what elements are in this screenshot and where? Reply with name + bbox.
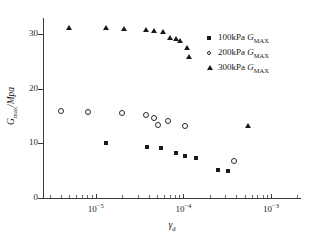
scatter-chart: 0102030 10−510−410−3 Gmax/Mpa γd 100kPa … xyxy=(0,0,314,243)
x-tick-minor xyxy=(257,195,258,198)
y-axis-title-units: /Mpa xyxy=(6,87,16,107)
x-tick-label: 10−5 xyxy=(76,201,116,214)
data-point xyxy=(183,154,187,158)
data-point xyxy=(174,151,178,155)
x-tick-label: 10−3 xyxy=(251,201,291,214)
y-axis-line xyxy=(43,18,44,198)
y-tick-label: 10 xyxy=(14,138,38,147)
x-tick-minor xyxy=(236,195,237,198)
x-tick-minor xyxy=(297,195,298,198)
data-point xyxy=(216,168,220,172)
x-axis-title-subscript: d xyxy=(172,225,175,232)
y-tick xyxy=(38,34,43,35)
legend-item: 300kPa GMAX xyxy=(207,60,312,75)
legend-marker-circle-icon xyxy=(207,51,211,55)
x-tick-minor xyxy=(69,195,70,198)
data-point xyxy=(104,141,108,145)
x-tick-minor xyxy=(164,195,165,198)
x-tick-minor xyxy=(252,195,253,198)
data-point xyxy=(103,25,109,30)
data-point xyxy=(194,156,198,160)
x-tick-minor xyxy=(92,195,93,198)
data-point xyxy=(58,108,64,114)
x-tick-minor xyxy=(245,195,246,198)
x-tick-minor xyxy=(179,195,180,198)
x-tick-minor xyxy=(157,195,158,198)
data-point xyxy=(182,123,188,129)
data-point xyxy=(165,118,171,124)
data-point xyxy=(186,54,192,59)
data-point xyxy=(143,112,149,118)
x-tick-minor xyxy=(149,195,150,198)
y-tick-label: 0 xyxy=(14,193,38,202)
legend-item: 100kPa GMAX xyxy=(207,30,312,45)
chart-legend: 100kPa GMAX200kPa GMAX300kPa GMAX xyxy=(207,30,312,75)
legend-marker-triangle-icon xyxy=(207,65,213,70)
data-point xyxy=(85,109,91,115)
y-axis-title-subscript: max xyxy=(11,107,18,118)
x-tick-minor xyxy=(122,195,123,198)
data-point xyxy=(231,158,237,164)
data-point xyxy=(119,110,125,116)
y-axis-title-symbol: G xyxy=(6,118,16,125)
data-point xyxy=(143,27,149,32)
y-tick xyxy=(38,89,43,90)
x-tick xyxy=(96,194,97,198)
x-tick-minor xyxy=(175,195,176,198)
x-tick-minor xyxy=(267,195,268,198)
x-tick-minor xyxy=(61,195,62,198)
legend-label: 300kPa GMAX xyxy=(218,60,269,78)
data-point xyxy=(66,25,72,30)
data-point xyxy=(184,45,190,50)
y-tick xyxy=(38,198,43,199)
x-tick-minor xyxy=(210,195,211,198)
data-point xyxy=(226,169,230,173)
x-tick-minor xyxy=(138,195,139,198)
x-tick-label: 10−4 xyxy=(163,201,203,214)
x-tick-minor xyxy=(225,195,226,198)
y-axis-title: Gmax/Mpa xyxy=(6,74,18,138)
x-tick xyxy=(183,194,184,198)
data-point xyxy=(160,29,166,34)
x-tick-minor xyxy=(50,195,51,198)
x-axis-title: γd xyxy=(152,219,192,232)
data-point xyxy=(155,122,161,128)
data-point xyxy=(151,28,157,33)
x-axis-line xyxy=(43,198,301,199)
data-point xyxy=(151,115,157,121)
legend-item: 200kPa GMAX xyxy=(207,45,312,60)
data-point xyxy=(159,146,163,150)
data-point xyxy=(245,123,251,128)
x-tick-minor xyxy=(87,195,88,198)
x-tick-minor xyxy=(76,195,77,198)
x-tick-minor xyxy=(170,195,171,198)
legend-marker-square-icon xyxy=(207,36,211,40)
x-tick-minor xyxy=(82,195,83,198)
x-tick xyxy=(271,194,272,198)
data-point xyxy=(121,26,127,31)
x-tick-minor xyxy=(263,195,264,198)
y-tick xyxy=(38,143,43,144)
y-tick-label: 30 xyxy=(14,29,38,38)
data-point xyxy=(145,145,149,149)
data-point xyxy=(177,38,183,43)
